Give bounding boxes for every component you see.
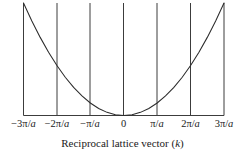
tick-text: 2π/ — [181, 118, 194, 129]
tick-italic: a — [195, 118, 200, 129]
x-tick-label-minus-3pi-a: −3π/a — [11, 119, 36, 130]
x-tick-label-3pi-a: 3π/a — [215, 119, 234, 130]
tick-text: 3π/ — [215, 118, 228, 129]
energy-band-parabola-plot — [0, 0, 245, 160]
tick-text: −3π/ — [11, 118, 30, 129]
tick-italic: a — [158, 118, 163, 129]
x-tick-label-2pi-a: 2π/a — [181, 119, 200, 130]
tick-text: −π/ — [80, 118, 94, 129]
x-tick-label-minus-pi-a: −π/a — [80, 119, 99, 130]
x-axis-title: Reciprocal lattice vector (k) — [0, 137, 245, 149]
figure-container: −3π/a −2π/a −π/a 0 π/a 2π/a 3π/a Recipro… — [0, 0, 245, 160]
tick-italic: a — [94, 118, 99, 129]
x-tick-label-zero: 0 — [121, 119, 126, 130]
tick-italic: a — [31, 118, 36, 129]
x-tick-label-pi-a: π/a — [150, 119, 163, 130]
tick-italic: a — [64, 118, 69, 129]
axis-title-suffix: ) — [180, 137, 184, 149]
tick-text: 0 — [121, 118, 126, 129]
tick-italic: a — [228, 118, 233, 129]
tick-text: π/ — [150, 118, 158, 129]
axis-title-prefix: Reciprocal lattice vector ( — [61, 137, 175, 149]
x-tick-label-minus-2pi-a: −2π/a — [45, 119, 70, 130]
tick-text: −2π/ — [45, 118, 64, 129]
